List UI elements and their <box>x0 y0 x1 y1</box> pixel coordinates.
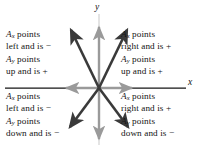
caption-q4-x-component: Ax points right and is + <box>121 91 171 115</box>
subscript-y: y <box>12 57 15 64</box>
caption-line1: points <box>132 91 155 101</box>
vector-arrow-quadrant-3 <box>70 88 99 127</box>
caption-line1: points <box>17 54 40 64</box>
vector-arrow-quadrant-2 <box>71 30 99 88</box>
caption-line2: up and is + <box>6 66 48 76</box>
subscript-y: y <box>12 119 15 126</box>
caption-q1-y-component: Ay points up and is + <box>121 54 163 78</box>
caption-line1: points <box>17 116 40 126</box>
caption-line1: points <box>17 29 40 39</box>
caption-line1: points <box>132 116 155 126</box>
caption-q3-y-component: Ay points down and is − <box>6 116 59 140</box>
caption-line2: left and is − <box>6 103 51 113</box>
caption-line2: left and is − <box>6 41 51 51</box>
caption-line1: points <box>132 54 155 64</box>
subscript-y: y <box>127 57 130 64</box>
caption-line1: points <box>132 29 155 39</box>
caption-q4-y-component: Ay points down and is − <box>121 116 174 140</box>
caption-line2: down and is − <box>121 128 174 138</box>
subscript-x: x <box>12 32 15 39</box>
caption-line1: points <box>17 91 40 101</box>
vector-quadrant-figure: y x Ax points left and is − Ay points up… <box>0 0 198 149</box>
caption-line2: right and is + <box>121 41 171 51</box>
caption-line2: up and is + <box>121 66 163 76</box>
caption-line2: right and is + <box>121 103 171 113</box>
caption-line2: down and is − <box>6 128 59 138</box>
caption-q2-x-component: Ax points left and is − <box>6 29 51 53</box>
y-axis-label: y <box>95 2 99 12</box>
subscript-x: x <box>127 94 130 101</box>
x-axis-label: x <box>188 77 192 87</box>
caption-q3-x-component: Ax points left and is − <box>6 91 51 115</box>
subscript-x: x <box>127 32 130 39</box>
caption-q2-y-component: Ay points up and is + <box>6 54 48 78</box>
caption-q1-x-component: Ax points right and is + <box>121 29 171 53</box>
subscript-x: x <box>12 94 15 101</box>
subscript-y: y <box>127 119 130 126</box>
